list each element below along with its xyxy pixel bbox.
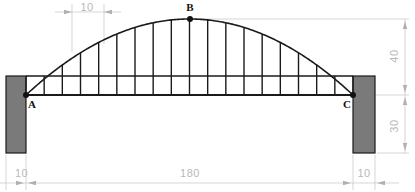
arrow-span-right	[343, 181, 351, 185]
dimension-text-right-pier-width: 10	[357, 167, 370, 179]
drawing-canvas: ABC1040301801010	[0, 0, 415, 192]
arrow-rise-bottom	[403, 85, 407, 93]
dimension-text-span: 180	[180, 167, 200, 179]
abutment-group	[6, 76, 375, 153]
dimension-text-arch-rise: 40	[388, 49, 400, 62]
arrow-height-top	[403, 97, 407, 105]
arrow-panel-right	[104, 10, 112, 14]
node-marker-b	[187, 16, 193, 22]
dimension-text-left-pier-width: 10	[15, 167, 28, 179]
dimension-text-pier-height: 30	[388, 119, 400, 132]
arrow-panel-left	[64, 10, 72, 14]
arrow-left-pier	[16, 181, 24, 185]
point-label-c: C	[343, 98, 351, 110]
point-label-a: A	[28, 98, 36, 110]
dimension-layer	[0, 4, 409, 190]
dimension-text-panel-spacing: 10	[80, 1, 93, 13]
right-abutment	[353, 76, 375, 153]
arrow-span-left	[28, 181, 36, 185]
arch-bridge-elevation-drawing: ABC1040301801010	[0, 0, 415, 192]
arrow-height-bottom	[403, 143, 407, 151]
arrow-rise-top	[403, 21, 407, 29]
left-abutment	[6, 76, 26, 153]
point-label-b: B	[186, 1, 194, 13]
arrow-right-pier	[377, 181, 385, 185]
